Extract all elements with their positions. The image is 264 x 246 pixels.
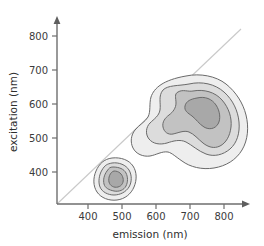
- x-tick-label-400: 400: [78, 211, 97, 222]
- y-tick-label-700: 700: [29, 65, 48, 76]
- x-axis-arrowhead-icon: [242, 201, 250, 208]
- x-axis-title: emission (nm): [113, 228, 188, 240]
- x-tick-label-700: 700: [180, 211, 199, 222]
- x-tick-labels: 400 500 600 700 800: [78, 211, 233, 222]
- x-tick-label-500: 500: [112, 211, 131, 222]
- x-tick-label-800: 800: [214, 211, 233, 222]
- x-tick-label-600: 600: [146, 211, 165, 222]
- y-tick-label-400: 400: [29, 167, 48, 178]
- y-tick-labels: 800 700 600 500 400: [29, 31, 48, 178]
- y-axis-title: excitation (nm): [7, 72, 19, 152]
- contour-level-4-low: [109, 171, 124, 187]
- plot-canvas: 800 700 600 500 400 400 500 600 700 800 …: [0, 0, 264, 246]
- contour-group-peak-low-wavelength: [94, 158, 136, 200]
- y-tick-label-600: 600: [29, 99, 48, 110]
- contour-plot-figure: 800 700 600 500 400 400 500 600 700 800 …: [0, 0, 264, 246]
- contour-group-peak-high-wavelength: [131, 75, 247, 169]
- y-tick-label-800: 800: [29, 31, 48, 42]
- y-axis-arrowhead-icon: [54, 16, 61, 24]
- y-tick-label-500: 500: [29, 133, 48, 144]
